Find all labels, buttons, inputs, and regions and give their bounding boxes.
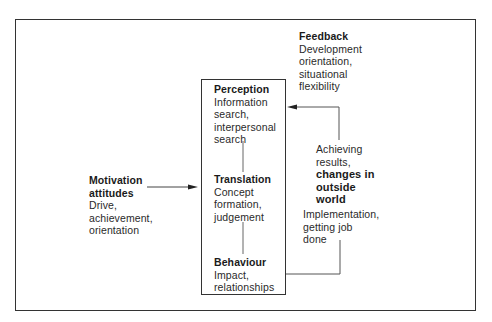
arrowhead-icon xyxy=(188,185,198,190)
connectors xyxy=(0,0,492,322)
arrowhead-icon xyxy=(287,105,297,110)
